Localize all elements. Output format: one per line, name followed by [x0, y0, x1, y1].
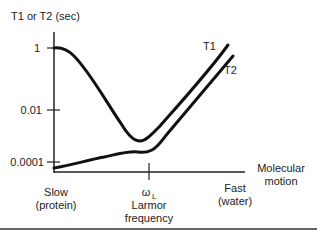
x-label-fast-sub: (water)	[218, 195, 252, 207]
x-label-slow: Slow	[44, 186, 68, 198]
y-tick-label-0.0001: 0.0001	[10, 156, 44, 168]
y-axis-title: T1 or T2 (sec)	[11, 10, 80, 22]
y-tick-label-0.01: 0.01	[21, 104, 42, 116]
x-label-frequency: frequency	[125, 212, 174, 224]
x-label-fast: Fast	[224, 182, 245, 194]
t2-label: T2	[224, 64, 237, 76]
x-axis-title-line1: Molecular	[257, 162, 305, 174]
x-label-larmor-symbol: ω	[142, 186, 151, 198]
y-tick-label-1: 1	[34, 42, 40, 54]
t1-label: T1	[203, 40, 216, 52]
x-axis-title-line2: motion	[264, 175, 297, 187]
relaxation-chart: T1 or T2 (sec) 1 0.01 0.0001 T1 T2 Molec…	[0, 0, 317, 232]
x-label-slow-sub: (protein)	[36, 199, 77, 211]
x-label-larmor: Larmor	[132, 199, 167, 211]
